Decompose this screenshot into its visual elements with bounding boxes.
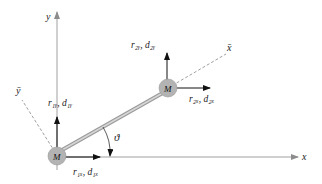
angle-theta: ϑ	[103, 127, 120, 156]
node2: M	[159, 79, 177, 97]
node1: M	[48, 147, 66, 165]
theta-label: ϑ	[114, 131, 120, 143]
x-axis-label: x	[301, 151, 307, 162]
ybar-axis-label: ȳ	[15, 85, 21, 96]
xbar-axis-label: x̄	[226, 42, 232, 53]
node1-y-dof-label: r₁ᵧ, d₁ᵧ	[48, 98, 73, 108]
local-xbar-axis: x̄	[168, 42, 232, 88]
local-ybar-axis: ȳ	[15, 85, 55, 152]
node2-y-dof-label: r₂ᵧ, d₂ᵧ	[131, 40, 156, 50]
diagram-svg: y x ȳ x̄ ϑ r₁ᵧ, d₁ᵧ r₁ₓ, d₁ₓ M r	[0, 0, 322, 184]
node1-x-dof-label: r₁ₓ, d₁ₓ	[73, 167, 99, 177]
node2-x-dof-label: r₂ₓ, d₂ₓ	[189, 94, 215, 104]
bar-element-diagram: y x ȳ x̄ ϑ r₁ᵧ, d₁ᵧ r₁ₓ, d₁ₓ M r	[0, 0, 322, 184]
node2-label: M	[163, 84, 172, 94]
y-axis-label: y	[45, 11, 51, 22]
node1-label: M	[52, 152, 61, 162]
